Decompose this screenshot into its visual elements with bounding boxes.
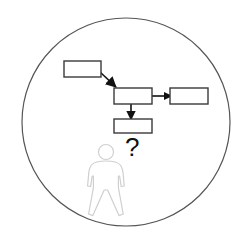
arrow-diagonal xyxy=(100,72,116,87)
person-figure xyxy=(88,145,125,216)
question-mark: ? xyxy=(125,132,139,162)
box-top-left[interactable] xyxy=(64,61,101,77)
confusion-diagram: ? xyxy=(0,0,248,244)
box-bottom[interactable] xyxy=(114,119,152,133)
person-body-icon xyxy=(88,161,125,216)
process-box-group xyxy=(64,61,208,133)
box-middle[interactable] xyxy=(114,88,152,104)
person-head-icon xyxy=(99,145,114,160)
diagram-canvas: ? xyxy=(0,0,248,244)
box-right[interactable] xyxy=(170,88,208,104)
